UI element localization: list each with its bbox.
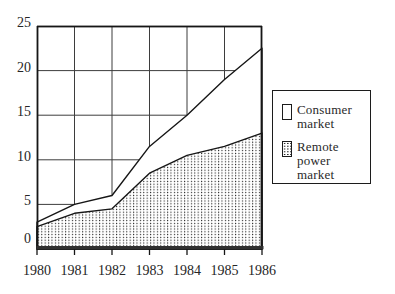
legend-label-line: market	[297, 167, 334, 182]
y-tick-label: 15	[0, 103, 31, 121]
remote-power-market-swatch-icon	[282, 141, 292, 157]
y-tick-label: 20	[0, 59, 31, 77]
legend: Consumer market Remote power market	[272, 90, 371, 184]
y-tick-label: 5	[0, 192, 31, 210]
x-tick-label: 1982	[92, 262, 132, 280]
x-tick-label: 1980	[17, 262, 57, 280]
x-tick-label: 1981	[55, 262, 95, 280]
legend-label-consumer-market: Consumer market	[297, 103, 352, 131]
consumer-market-swatch-icon	[282, 104, 292, 120]
y-tick-label: 25	[0, 14, 31, 32]
y-tick-label: 0	[0, 230, 31, 248]
x-tick-label: 1983	[130, 262, 170, 280]
y-tick-label: 10	[0, 148, 31, 166]
legend-item-consumer-market: Consumer market	[282, 103, 366, 131]
plot-area	[37, 26, 262, 249]
figure-stacked-area-chart: 0510152025 1980198119821983198419851986 …	[0, 0, 395, 294]
x-tick-label: 1984	[167, 262, 207, 280]
x-tick-label: 1985	[205, 262, 245, 280]
x-tick-label: 1986	[242, 262, 282, 280]
legend-label-line: Remote power	[297, 139, 339, 168]
legend-label-remote-power-market: Remote power market	[297, 140, 366, 182]
legend-item-remote-power-market: Remote power market	[282, 140, 366, 182]
legend-label-line: Consumer	[297, 102, 352, 117]
legend-label-line: market	[297, 116, 334, 131]
